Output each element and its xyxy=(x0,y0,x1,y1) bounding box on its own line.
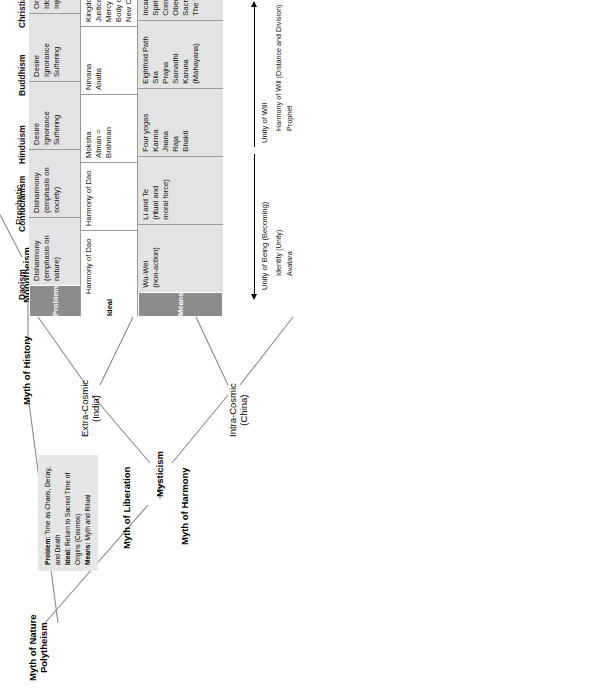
row-label-problem: Problem xyxy=(29,285,81,317)
callout-box: Problem: Time as Chaos, Decay, and Death… xyxy=(38,455,98,571)
root-line-2: Polytheism xyxy=(39,615,50,682)
matrix-row-ideal: Ideal Harmony of Dao Harmony of Dao Moks… xyxy=(81,0,138,317)
cell-daoism-ideal: Harmony of Dao xyxy=(81,230,138,298)
matrix-row-problem: Problem Disharmony (emphasis on nature) … xyxy=(29,0,81,317)
callout-ideal-label: Ideal: xyxy=(64,548,71,565)
axis-unity-of-being-sub2: Avatara xyxy=(285,251,294,276)
row-label-means: Means xyxy=(138,292,223,317)
callout-means: Means: Myth and Ritual xyxy=(83,461,93,565)
tree-node-myth-of-history: Myth of History xyxy=(22,336,33,405)
cell-confucianism-ideal: Harmony of Dao xyxy=(81,162,138,230)
cell-confucianism-problem: Disharmony (emphasis on society) xyxy=(29,149,81,217)
matrix-header-row: Daoism Confucianism Hinduism Buddhism Ch… xyxy=(14,0,29,317)
cell-daoism-problem: Disharmony (emphasis on nature) xyxy=(29,217,81,285)
cell-christianity-problem: Original Sin Idolatry and Injustice xyxy=(29,0,81,13)
callout-problem: Problem: Time as Chaos, Decay, and Death xyxy=(43,461,63,565)
matrix-row-means: Means Wu-Wei (non-action) Li and Te (rit… xyxy=(138,0,223,317)
axis-unity-of-will-label: Unity of Will xyxy=(260,103,269,143)
tree-node-root: Myth of Nature Polytheism xyxy=(28,615,50,682)
col-header-daoism: Daoism xyxy=(14,232,29,300)
col-header-buddhism: Buddhism xyxy=(14,28,29,96)
callout-ideal: Ideal: Return to Sacred Time of Origins … xyxy=(63,461,83,565)
diagram-canvas: Myth of Nature Polytheism Myth of Harmon… xyxy=(0,0,596,695)
matrix-columns: Daoism Confucianism Hinduism Buddhism Ch… xyxy=(14,0,223,317)
col-header-christianity: Christianity xyxy=(14,0,29,28)
cell-hinduism-problem: Desire Ignorance Suffering xyxy=(29,81,81,149)
tree-node-myth-of-liberation: Myth of Liberation xyxy=(122,467,133,549)
tree-node-extra-cosmic: Extra-Cosmic (India) xyxy=(80,380,102,437)
cell-buddhism-means: Eightfold Path Sila Prajna Samadhi Karun… xyxy=(138,20,223,88)
comparison-matrix: Daoism Confucianism Hinduism Buddhism Ch… xyxy=(14,0,223,317)
axis-unity-of-being-label: Unity of Being (Becoming) xyxy=(260,202,269,290)
cell-hinduism-ideal: Moksha Atman = Brahman xyxy=(81,94,138,162)
col-header-confucianism: Confucianism xyxy=(14,164,29,232)
tree-node-mysticism: Mysticism xyxy=(155,451,166,497)
cell-hinduism-means: Four yogas Karma Jnana Raja Bhakti xyxy=(138,88,223,156)
cell-daoism-means: Wu-Wei (non-action) xyxy=(138,224,223,292)
row-label-ideal: Ideal xyxy=(81,298,138,317)
tree-node-intra-cosmic: Intra-Cosmic (China) xyxy=(228,383,250,437)
tree-node-myth-of-harmony: Myth of Harmony xyxy=(180,467,191,545)
axis-unity-of-will-sub1: Harmony of Will (Distance and Division) xyxy=(274,4,283,131)
col-header-hinduism: Hinduism xyxy=(14,96,29,164)
axis-unity-of-will-sub2: Prophet xyxy=(285,106,294,131)
extra-cosmic-line-2: (India) xyxy=(91,380,102,437)
cell-buddhism-ideal: Nirvana Anatta xyxy=(81,26,138,94)
intra-cosmic-line-2: (China) xyxy=(239,383,250,437)
callout-problem-label: Problem: xyxy=(44,536,51,565)
callout-means-label: Means: xyxy=(84,542,91,565)
axis-unity-of-being-sub1: Identity (Unity) xyxy=(274,230,283,276)
cell-confucianism-means: Li and Te (ritual and moral force) xyxy=(138,156,223,224)
callout-means-text: Myth and Ritual xyxy=(84,495,91,543)
cell-christianity-ideal: Kingdom of God Justice and Mercy Body of… xyxy=(81,0,138,26)
cell-christianity-means: Incarnation Spirit/Grace Commandments Ob… xyxy=(138,0,223,20)
cell-buddhism-problem: Desire Ignorance Suffering xyxy=(29,13,81,81)
